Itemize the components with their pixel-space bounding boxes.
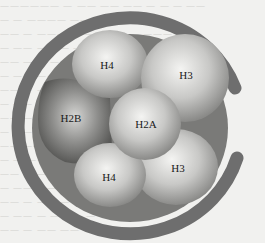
label-h4-bottom: H4 [102,171,115,183]
label-h3-bottom: H3 [171,162,184,174]
label-h2b: H2B [61,112,82,124]
label-h4-top: H4 [100,59,113,71]
nucleosome-diagram [0,0,265,243]
label-h3-top: H3 [179,69,192,81]
label-h2a: H2A [135,118,156,130]
